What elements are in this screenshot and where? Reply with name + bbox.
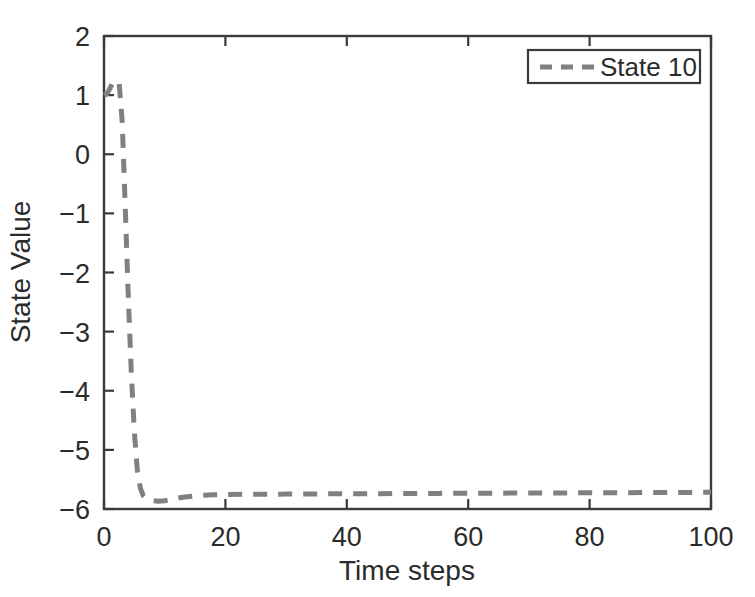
x-axis-title: Time steps [339, 555, 475, 586]
legend-label-state-10: State 10 [600, 52, 697, 82]
y-tick-label: −1 [59, 199, 90, 229]
y-tick-label: −4 [59, 377, 90, 407]
y-tick-label: −6 [59, 495, 90, 525]
x-tick-label: 100 [688, 522, 733, 552]
chart-canvas: 210−1−2−3−4−5−6 020406080100 Time steps … [0, 0, 755, 597]
y-tick-label: 1 [75, 81, 90, 111]
y-tick-label: −3 [59, 318, 90, 348]
y-axis-title: State Value [5, 201, 36, 344]
x-tick-label: 0 [96, 522, 111, 552]
x-tick-label: 80 [575, 522, 605, 552]
legend[interactable]: State 10 [528, 50, 700, 83]
x-tick-label: 60 [453, 522, 483, 552]
y-tick-label: 2 [75, 22, 90, 52]
y-tick-label: −5 [59, 436, 90, 466]
figure-background [0, 0, 755, 597]
x-tick-label: 20 [210, 522, 240, 552]
figure-container: 210−1−2−3−4−5−6 020406080100 Time steps … [0, 0, 755, 597]
y-tick-label: −2 [59, 259, 90, 289]
y-tick-label: 0 [75, 140, 90, 170]
x-tick-label: 40 [332, 522, 362, 552]
